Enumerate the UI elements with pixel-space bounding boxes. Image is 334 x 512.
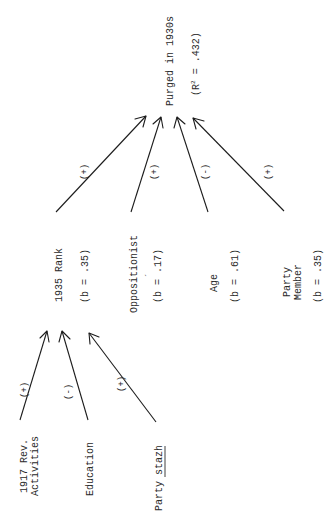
- education-label: Education: [85, 442, 96, 496]
- edge-sign: (-): [64, 384, 74, 400]
- arrow-line: [56, 116, 146, 212]
- rev-activities-label-line1: 1917 Rev.: [19, 439, 30, 493]
- arrow-line: [62, 331, 88, 420]
- edge-rank-to-purged: (+): [56, 116, 146, 212]
- edge-sign: (+): [20, 382, 30, 398]
- age-label: Age: [209, 274, 220, 292]
- oppositionist-coef: (b = .17): [153, 249, 164, 303]
- party-stazh-label: Party stazh: [154, 445, 165, 511]
- purged-label: Purged in 1930s: [165, 16, 176, 106]
- edge-sign: (+): [80, 164, 90, 180]
- edge-stazh-to-rank: (+): [89, 333, 156, 422]
- edge-sign: (+): [117, 376, 127, 392]
- node-1935-rank: 1935 Rank (b = .35): [54, 248, 91, 303]
- edge-education-to-rank: (-): [59, 331, 88, 420]
- party-member-coef: (b = .35): [313, 249, 324, 303]
- edge-sign: (-): [201, 164, 211, 180]
- node-age: Age (b = .61): [209, 249, 241, 303]
- party-member-label-line2: Member: [293, 264, 304, 300]
- node-party-stazh: Party stazh: [154, 445, 165, 511]
- rev-activities-label-line2: Activities: [30, 436, 41, 496]
- arrow-line: [20, 331, 47, 420]
- rank-label: 1935 Rank: [54, 248, 65, 302]
- rank-coef: (b = .35): [80, 249, 91, 303]
- r-squared-label: (R2 = .432): [190, 32, 202, 96]
- edge-sign: (+): [264, 164, 274, 180]
- edge-sign: (+): [150, 164, 160, 180]
- node-1917-rev-activities: 1917 Rev. Activities: [19, 436, 41, 496]
- node-education: Education: [85, 442, 96, 496]
- oppositionist-label: Oppositionist: [129, 235, 140, 313]
- node-party-member: Party Member (b = .35): [282, 249, 324, 303]
- node-purged: Purged in 1930s (R2 = .432): [165, 16, 202, 106]
- party-member-label-line1: Party: [282, 267, 293, 297]
- age-coef: (b = .61): [230, 249, 241, 303]
- path-diagram: Purged in 1930s (R2 = .432) (+) (+) (-) …: [0, 0, 334, 512]
- edge-oppositionist-to-purged: (+): [131, 117, 163, 212]
- edge-revactivities-to-rank: (+): [20, 331, 49, 420]
- node-oppositionist: Oppositionist ´ (b = .17): [129, 235, 164, 313]
